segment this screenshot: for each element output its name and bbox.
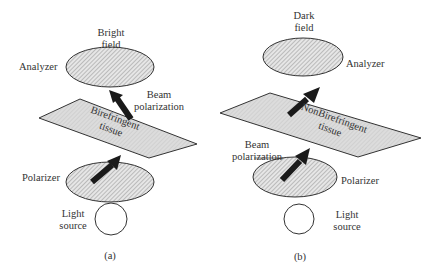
- source-label-line1-b: Light: [330, 209, 364, 221]
- dark-label-line1: Dark: [289, 10, 319, 22]
- polarizer-label-b: Polarizer: [341, 175, 379, 187]
- beam-label-line1-a: Beam: [133, 89, 185, 101]
- caption-a: (a): [98, 250, 122, 262]
- source-label-line1-a: Light: [56, 208, 90, 220]
- beam-polarization-label-a: Beam polarization: [133, 89, 185, 113]
- light-source-b: [284, 204, 314, 234]
- dark-field-label: Dark field: [289, 10, 319, 34]
- polarization-diagram: Bright field Analyzer Beam polarization …: [0, 0, 443, 274]
- analyzer-b: [263, 38, 343, 76]
- panel-b: [220, 38, 421, 234]
- source-label-line2-a: source: [56, 220, 90, 232]
- caption-b: (b): [288, 251, 312, 263]
- diagram-graphics: [0, 0, 443, 274]
- beam-label-line2-b: polarization: [230, 151, 284, 163]
- bright-label-line1: Bright: [94, 27, 128, 39]
- analyzer-label-a: Analyzer: [19, 61, 57, 73]
- source-label-line2-b: source: [330, 221, 364, 233]
- analyzer-a: [66, 47, 154, 87]
- beam-label-line1-b: Beam: [230, 139, 284, 151]
- panel-a: [39, 47, 197, 235]
- analyzer-label-b: Analyzer: [346, 58, 384, 70]
- dark-label-line2: field: [289, 22, 319, 34]
- beam-label-line2-a: polarization: [133, 101, 185, 113]
- light-source-a: [95, 203, 127, 235]
- bright-field-label: Bright field: [94, 27, 128, 51]
- light-source-label-b: Light source: [330, 209, 364, 233]
- beam-polarization-label-b: Beam polarization: [230, 139, 284, 163]
- light-source-label-a: Light source: [56, 208, 90, 232]
- bright-label-line2: field: [94, 39, 128, 51]
- polarizer-label-a: Polarizer: [22, 172, 60, 184]
